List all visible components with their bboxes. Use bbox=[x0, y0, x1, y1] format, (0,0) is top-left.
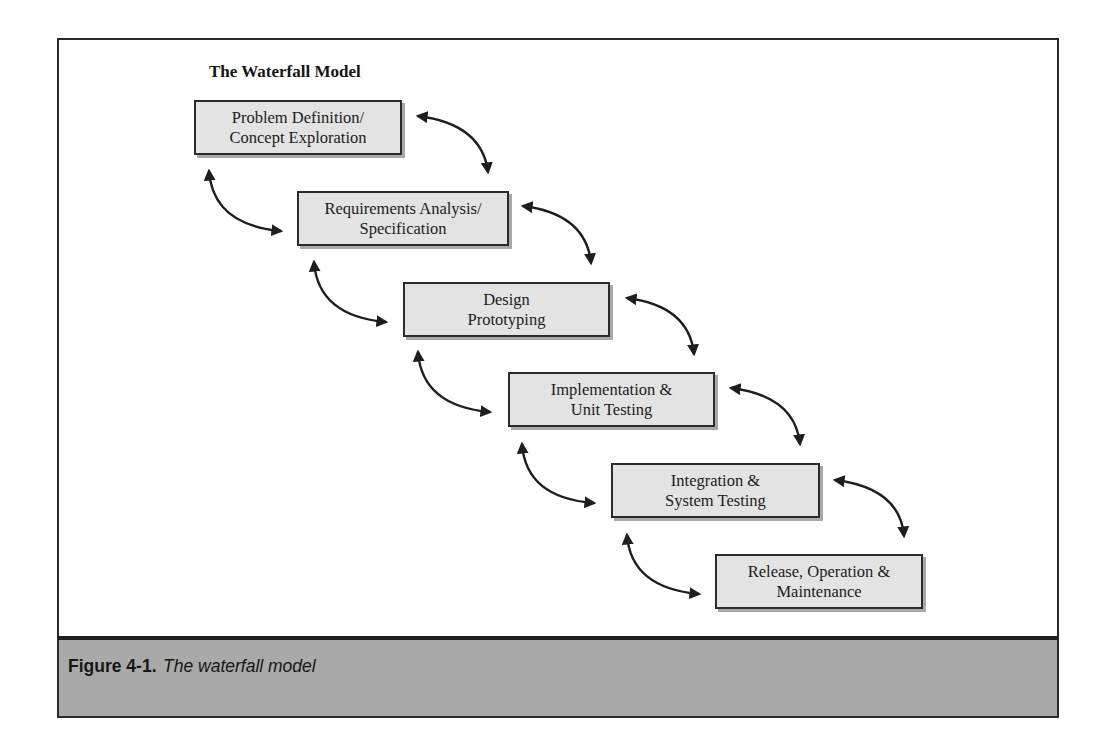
figure-caption-text: The waterfall model bbox=[163, 656, 316, 676]
forward-arrow-4-5 bbox=[731, 388, 800, 444]
forward-arrow-3-4 bbox=[627, 298, 694, 354]
figure-number: Figure 4-1. bbox=[68, 656, 163, 677]
backward-arrow-6-5 bbox=[627, 535, 699, 594]
backward-arrow-5-4 bbox=[522, 444, 594, 503]
caption-band bbox=[57, 636, 1059, 718]
forward-arrow-2-3 bbox=[523, 206, 591, 263]
backward-arrow-2-1 bbox=[209, 171, 281, 231]
forward-arrow-1-2 bbox=[418, 116, 488, 172]
backward-arrow-3-2 bbox=[314, 262, 386, 322]
forward-arrow-5-6 bbox=[835, 480, 904, 536]
backward-arrow-4-3 bbox=[418, 352, 490, 412]
figure-caption: Figure 4-1.The waterfall model bbox=[68, 656, 316, 677]
